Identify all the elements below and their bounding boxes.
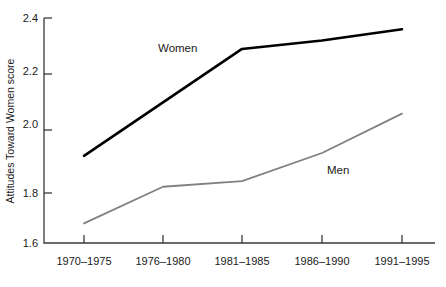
x-tick-marks xyxy=(84,235,402,243)
x-tick-label: 1976–1980 xyxy=(135,255,190,267)
x-tick-label: 1991–1995 xyxy=(374,255,429,267)
series-line-men xyxy=(84,114,402,224)
x-tick-label: 1981–1985 xyxy=(214,255,269,267)
y-tick-label: 1.6 xyxy=(23,237,38,249)
y-tick-label: 1.8 xyxy=(23,187,38,199)
x-tick-label: 1970–1975 xyxy=(56,255,111,267)
y-tick-label: 2.0 xyxy=(23,118,38,130)
series-label-men: Men xyxy=(327,164,349,176)
y-tick-label: 2.2 xyxy=(23,65,38,77)
y-tick-marks xyxy=(44,18,52,193)
series-label-women: Women xyxy=(158,42,197,54)
y-axis-title: Attitudes Toward Women score xyxy=(4,58,16,203)
chart-figure: Attitudes Toward Women score 2.4 2.2 2.0… xyxy=(0,0,446,287)
y-tick-label: 2.4 xyxy=(23,12,38,24)
x-tick-label: 1986–1990 xyxy=(294,255,349,267)
line-chart: Attitudes Toward Women score 2.4 2.2 2.0… xyxy=(0,0,446,287)
